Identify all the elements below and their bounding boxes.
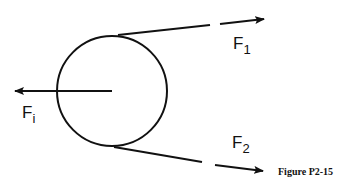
pulley-force-diagram: Fi F1 F2 Figure P2-15 xyxy=(0,0,357,189)
label-fi: Fi xyxy=(22,103,35,126)
label-f2: F2 xyxy=(232,133,250,156)
belt-top-f1 xyxy=(118,19,264,35)
figure-caption: Figure P2-15 xyxy=(278,166,333,177)
label-f1: F1 xyxy=(233,34,251,57)
